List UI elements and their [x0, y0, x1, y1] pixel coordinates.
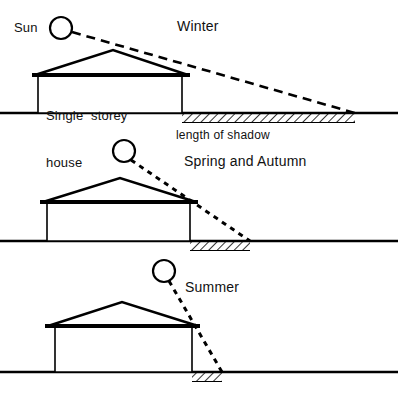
- winter-label: Winter: [177, 18, 219, 35]
- spring-autumn-label: Spring and Autumn: [184, 153, 306, 170]
- house-caption-line2: house: [46, 155, 128, 171]
- length-of-shadow-label: length of shadow: [176, 128, 270, 143]
- summer-label: Summer: [185, 279, 239, 296]
- sun-icon-winter: [50, 17, 72, 39]
- shadow-band-summer: [192, 373, 222, 382]
- house-roof-winter: [35, 50, 188, 75]
- shadow-band-spring-autumn: [190, 242, 250, 251]
- house-body-spring-autumn: [47, 203, 190, 241]
- house-body-summer: [55, 327, 192, 372]
- house-caption: Single storey house: [46, 76, 128, 203]
- house-roof-summer: [48, 302, 198, 326]
- seasonal-shadow-diagram: Sun Winter Single storey house length of…: [0, 0, 398, 400]
- house-caption-line1: Single storey: [46, 108, 128, 124]
- sun-label: Sun: [14, 20, 38, 36]
- sun-icon-summer: [153, 260, 175, 282]
- shadow-band-winter: [182, 114, 355, 123]
